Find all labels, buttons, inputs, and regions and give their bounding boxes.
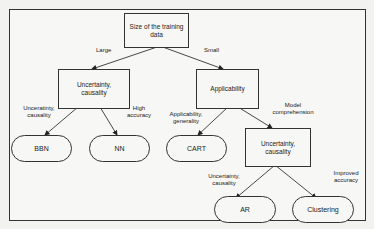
edge-label-to-cart: Applicability, generality — [167, 111, 205, 125]
edge-label-to-bbn: Unceratinty, causality — [20, 105, 58, 119]
edge-label-to-clustering: Improved accuracy — [330, 170, 362, 184]
leaf-ar: AR — [214, 196, 276, 223]
node-applicability: Applicability — [196, 69, 259, 109]
edge-to-right-child — [238, 107, 272, 128]
node-uncertainty-right: Uncertainty, causality — [245, 128, 311, 167]
edge-label-to-ar: Uncertainty, causality — [204, 173, 244, 187]
leaf-clustering: Clustering — [292, 196, 354, 223]
node-uncertainty-left: Uncertainty, causality — [58, 69, 130, 109]
edge-label-to-nn: High accuracy — [124, 105, 154, 119]
edge-to-nn — [100, 107, 117, 135]
edge-label-small: Small — [204, 47, 219, 54]
leaf-bbn: BBN — [11, 135, 72, 162]
edge-to-clustering — [275, 165, 316, 198]
edge-label-large: Large — [96, 47, 111, 54]
leaf-cart: CART — [166, 135, 227, 162]
leaf-nn: NN — [89, 135, 150, 162]
edge-label-to-right-child: Model comprehension — [268, 102, 318, 116]
node-root: Size of the training data — [124, 13, 189, 48]
